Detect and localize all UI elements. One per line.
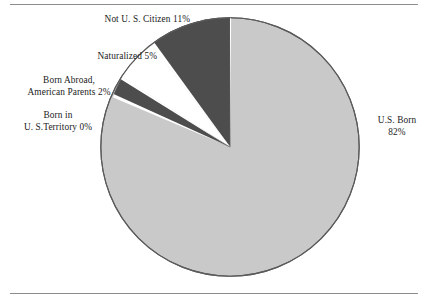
bottom-divider-rule bbox=[10, 293, 418, 294]
pie-label-naturalized-text: Naturalized 5% bbox=[98, 51, 157, 61]
pie-label-born-abroad: Born Abroad, American Parents 2% bbox=[0, 75, 138, 98]
pie-label-born-abroad-line2: American Parents 2% bbox=[0, 87, 138, 99]
pie-label-us-born-line2: 82% bbox=[368, 127, 426, 139]
pie-label-naturalized: Naturalized 5% bbox=[0, 51, 157, 63]
pie-label-us-born: U.S. Born 82% bbox=[368, 115, 426, 138]
top-divider-rule bbox=[10, 4, 418, 5]
pie-label-not-us-citizen-text: Not U. S. Citizen 11% bbox=[105, 14, 190, 24]
pie-label-born-in-us-territory-line2: U. S.Territory 0% bbox=[0, 122, 116, 134]
pie-label-born-in-us-territory: Born in U. S.Territory 0% bbox=[0, 110, 116, 133]
pie-label-born-abroad-line1: Born Abroad, bbox=[0, 75, 138, 87]
pie-label-not-us-citizen: Not U. S. Citizen 11% bbox=[0, 14, 190, 26]
pie-chart-figure: Not U. S. Citizen 11% Naturalized 5% Bor… bbox=[0, 0, 428, 300]
pie-label-born-in-us-territory-line1: Born in bbox=[0, 110, 116, 122]
pie-label-us-born-line1: U.S. Born bbox=[368, 115, 426, 127]
